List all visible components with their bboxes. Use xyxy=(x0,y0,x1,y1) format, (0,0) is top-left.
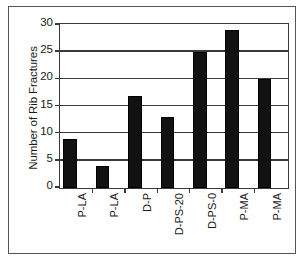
x-axis-tick-label: P-LA xyxy=(107,193,121,262)
figure-outer-border: Number of Rib Fractures 051015202530 P-L… xyxy=(8,6,296,254)
bar xyxy=(258,79,272,188)
y-axis-tickmark xyxy=(55,159,60,161)
bar xyxy=(193,52,207,188)
y-axis-tickmark xyxy=(55,132,60,134)
y-axis-tick-label: 15 xyxy=(31,99,53,111)
y-axis-tickmark xyxy=(55,50,60,52)
y-axis-tickmark xyxy=(55,186,60,188)
figure-canvas: Number of Rib Fractures 051015202530 P-L… xyxy=(0,0,305,262)
y-axis-tickmark xyxy=(55,105,60,107)
bar xyxy=(63,139,77,188)
bar xyxy=(128,96,142,188)
plot-area xyxy=(59,23,289,189)
x-axis-tick-label: D-PS-0 xyxy=(205,193,219,262)
gridline xyxy=(60,78,288,80)
y-axis-tick-label: 25 xyxy=(31,44,53,56)
y-axis-tick-label: 0 xyxy=(31,180,53,192)
y-axis-tickmark xyxy=(55,23,60,25)
y-axis-tick-label: 20 xyxy=(31,72,53,84)
x-axis-tick-label: P-MA xyxy=(237,193,251,262)
gridline xyxy=(60,105,288,107)
x-axis-tick-labels: P-LAP-LAD-PD-PS-20D-PS-0P-MAP-MA xyxy=(59,193,289,259)
bar xyxy=(225,30,239,188)
bar xyxy=(161,117,175,188)
y-axis-tickmark xyxy=(55,78,60,80)
bar xyxy=(96,166,110,188)
gridline xyxy=(60,50,288,52)
y-axis-tick-label: 5 xyxy=(31,153,53,165)
x-axis-tick-label: P-MA xyxy=(270,193,284,262)
y-axis-tick-label: 30 xyxy=(31,17,53,29)
y-axis-tick-label: 10 xyxy=(31,126,53,138)
x-axis-tick-label: D-P xyxy=(140,193,154,262)
x-axis-tick-label: D-PS-20 xyxy=(172,193,186,262)
y-axis-tick-labels: 051015202530 xyxy=(31,17,53,189)
plot-inner xyxy=(60,24,288,188)
x-axis-tick-label: P-LA xyxy=(75,193,89,262)
